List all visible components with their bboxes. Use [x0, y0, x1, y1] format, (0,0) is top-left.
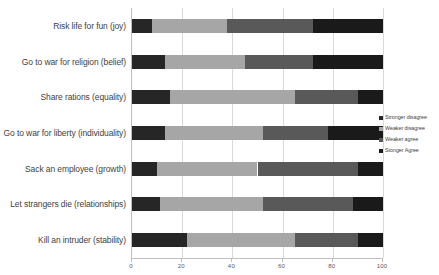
tick-mark-100	[382, 258, 383, 262]
legend-item[interactable]: Stronger disagree	[379, 113, 439, 123]
bar-segment	[132, 55, 165, 69]
tick-label-100: 100	[377, 263, 388, 269]
bar-segment	[132, 126, 165, 140]
bar-row: Let strangers die (relationships)	[132, 197, 383, 211]
bar-segment	[132, 197, 160, 211]
chart-legend: Stronger disagreeWeaker disagreeWeaker a…	[379, 113, 439, 157]
bar-segment	[263, 126, 328, 140]
bar-segment	[165, 126, 263, 140]
legend-item[interactable]: Stonger Agree	[379, 146, 439, 156]
bar-segment	[132, 162, 157, 176]
category-label: Risk life for fun (joy)	[53, 21, 126, 31]
bar-row: Share rations (equality)	[132, 90, 383, 104]
legend-item[interactable]: Weaker agree	[379, 135, 439, 145]
bar-segment	[295, 233, 358, 247]
bar-segment	[358, 90, 383, 104]
tick-mark-20	[181, 258, 182, 262]
category-label: Kill an intruder (stability)	[38, 235, 126, 245]
bar-segment	[132, 90, 170, 104]
tick-mark-60	[282, 258, 283, 262]
legend-swatch-icon	[379, 116, 383, 120]
bar-segment	[263, 197, 353, 211]
legend-swatch-icon	[379, 127, 383, 131]
bar-segment	[132, 19, 152, 33]
bar-segment	[258, 162, 358, 176]
category-label: Let strangers die (relationships)	[10, 199, 126, 209]
category-label: Go to war for religion (belief)	[22, 57, 126, 67]
bar-row: Risk life for fun (joy)	[132, 19, 383, 33]
bar-segment	[353, 197, 383, 211]
tick-label-20: 20	[178, 263, 185, 269]
tick-mark-40	[231, 258, 232, 262]
bar-segment	[358, 162, 383, 176]
tick-label-80: 80	[328, 263, 335, 269]
category-label: Sack an employee (growth)	[25, 164, 126, 174]
bar-segment	[313, 19, 383, 33]
plot-area: Risk life for fun (joy)Go to war for rel…	[131, 8, 383, 258]
legend-label: Weaker disagree	[385, 126, 425, 131]
legend-label: Stonger Agree	[385, 148, 419, 153]
bar-row: Sack an employee (growth)	[132, 162, 383, 176]
legend-label: Weaker agree	[385, 137, 418, 142]
stacked-bar-chart: Risk life for fun (joy)Go to war for rel…	[0, 0, 439, 275]
bar-segment	[187, 233, 295, 247]
tick-label-40: 40	[228, 263, 235, 269]
bar-segment	[160, 197, 263, 211]
bar-row: Kill an intruder (stability)	[132, 233, 383, 247]
legend-swatch-icon	[379, 138, 383, 142]
legend-swatch-icon	[379, 149, 383, 153]
bar-segment	[358, 233, 383, 247]
tick-label-60: 60	[278, 263, 285, 269]
bar-segment	[170, 90, 296, 104]
category-label: Go to war for liberty (individuality)	[4, 128, 126, 138]
bar-segment	[132, 233, 187, 247]
bar-segment	[152, 19, 227, 33]
legend-item[interactable]: Weaker disagree	[379, 124, 439, 134]
bar-segment	[313, 55, 383, 69]
bar-segment	[165, 55, 245, 69]
x-axis-line	[131, 258, 383, 259]
bar-row: Go to war for liberty (individuality)	[132, 126, 383, 140]
bar-segment	[227, 19, 312, 33]
bar-segment	[328, 126, 383, 140]
category-label: Share rations (equality)	[41, 92, 126, 102]
bar-row: Go to war for religion (belief)	[132, 55, 383, 69]
tick-mark-80	[332, 258, 333, 262]
bar-segment	[245, 55, 313, 69]
tick-mark-0	[131, 258, 132, 262]
bar-segment	[157, 162, 257, 176]
tick-label-0: 0	[129, 263, 133, 269]
legend-label: Stronger disagree	[385, 115, 427, 120]
bar-segment	[295, 90, 358, 104]
